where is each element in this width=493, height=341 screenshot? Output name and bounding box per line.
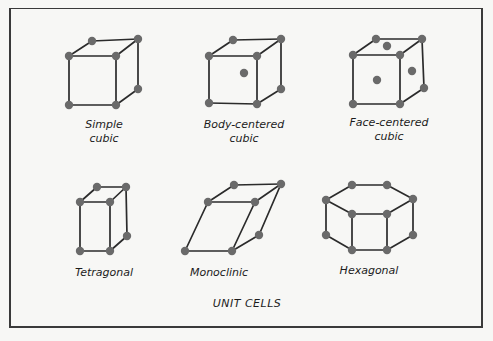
simple-cubic-label: Simplecubic <box>85 118 123 146</box>
unit-cells-canvas <box>0 0 493 341</box>
label-line-1: Body-centered <box>204 118 285 132</box>
atom-dot <box>383 181 391 189</box>
face-centered-cubic-label: Face-centeredcubic <box>350 116 429 144</box>
atom-dot <box>230 181 238 189</box>
tetragonal-cell <box>76 183 131 255</box>
atom-dot <box>373 76 381 84</box>
atom-dot <box>112 52 120 60</box>
atom-dot <box>205 52 213 60</box>
atom-dot <box>204 198 212 206</box>
atom-dot <box>76 198 84 206</box>
label-line-1: Simple <box>85 118 123 132</box>
atom-dot <box>240 69 248 77</box>
atom-dot <box>93 183 101 191</box>
cell-edge <box>208 185 234 202</box>
atom-dot <box>76 247 84 255</box>
simple-cubic-cell <box>65 35 142 109</box>
atom-dot <box>106 198 114 206</box>
atom-dot <box>383 42 391 50</box>
cell-edge <box>233 39 281 40</box>
cell-edge <box>257 89 281 104</box>
atom-dot <box>396 51 404 59</box>
atom-dot <box>349 100 357 108</box>
cell-edge <box>126 187 127 236</box>
atom-dot <box>408 67 416 75</box>
atom-dot <box>134 85 142 93</box>
cell-edge <box>326 200 352 214</box>
atom-dot <box>253 52 261 60</box>
atom-dot <box>396 100 404 108</box>
atom-dot <box>348 210 356 218</box>
atom-dot <box>409 231 417 239</box>
tetragonal-label: Tetragonal <box>75 266 133 280</box>
atom-dot <box>409 195 417 203</box>
atom-dot <box>348 181 356 189</box>
cell-edge <box>185 202 208 251</box>
label-line-1: Monoclinic <box>190 266 248 280</box>
atom-dot <box>205 99 213 107</box>
body-centered-cubic-cell <box>205 35 285 108</box>
atom-dot <box>277 35 285 43</box>
atom-dot <box>277 85 285 93</box>
atom-dot <box>253 100 261 108</box>
atom-dot <box>372 35 380 43</box>
cell-edge <box>234 184 281 185</box>
atom-dot <box>277 180 285 188</box>
atom-dot <box>251 198 259 206</box>
atom-dot <box>123 232 131 240</box>
label-line-2: cubic <box>204 132 285 146</box>
label-line-2: cubic <box>85 132 123 146</box>
cell-edge <box>209 103 257 104</box>
cell-edge <box>92 39 138 41</box>
atom-dot <box>134 35 142 43</box>
cell-edge <box>326 185 352 200</box>
atom-dot <box>383 246 391 254</box>
atom-dot <box>181 247 189 255</box>
hexagonal-cell <box>322 181 417 254</box>
atom-dot <box>420 84 428 92</box>
atom-dot <box>106 247 114 255</box>
atom-dot <box>348 246 356 254</box>
atom-dot <box>322 196 330 204</box>
atom-dot <box>322 231 330 239</box>
atom-dot <box>383 210 391 218</box>
hexagonal-label: Hexagonal <box>340 264 399 278</box>
monoclinic-cell <box>181 180 285 255</box>
face-centered-cubic-cell <box>349 35 428 108</box>
cell-edge <box>400 88 424 104</box>
atom-dot <box>65 101 73 109</box>
label-line-1: Face-centered <box>350 116 429 130</box>
cell-edge <box>257 39 281 56</box>
cell-edge <box>387 185 413 199</box>
body-centered-cubic-label: Body-centeredcubic <box>204 118 285 146</box>
monoclinic-label: Monoclinic <box>190 266 248 280</box>
label-line-1: Tetragonal <box>75 266 133 280</box>
atom-dot <box>255 231 263 239</box>
cell-edge <box>353 39 376 55</box>
atom-dot <box>349 51 357 59</box>
atom-dot <box>122 183 130 191</box>
cell-edge <box>422 39 424 88</box>
cell-edge <box>209 40 233 56</box>
diagram-title: UNIT CELLS <box>213 297 282 310</box>
atom-dot <box>88 37 96 45</box>
cell-edge <box>387 199 413 214</box>
atom-dot <box>418 35 426 43</box>
cell-edge <box>387 235 413 250</box>
atom-dot <box>112 101 120 109</box>
atom-dot <box>229 36 237 44</box>
cell-edge <box>326 235 352 250</box>
label-line-1: Hexagonal <box>340 264 399 278</box>
label-line-2: cubic <box>350 130 429 144</box>
atom-dot <box>65 52 73 60</box>
atom-dot <box>228 247 236 255</box>
